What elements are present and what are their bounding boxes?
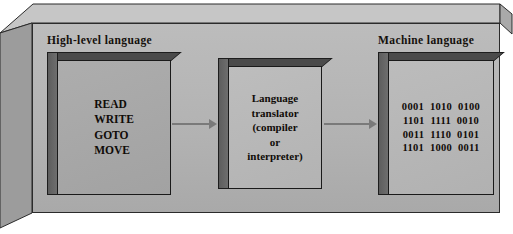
- box-language-translator: Language translator (compiler or interpr…: [218, 58, 322, 189]
- box-front-face: Language translator (compiler or interpr…: [228, 66, 322, 189]
- label-machine-language: Machine language: [378, 34, 474, 46]
- high-level-keywords: READ WRITE GOTO MOVE: [90, 97, 138, 158]
- arrow-translator-to-machine-icon: [324, 119, 377, 129]
- box-front-face: 0001 1010 0100 1101 1111 0010 0011 1110 …: [388, 60, 494, 195]
- machine-code-lines: 0001 1010 0100 1101 1111 0010 0011 1110 …: [398, 100, 484, 155]
- arrow-shaft: [172, 123, 210, 125]
- arrow-shaft: [324, 123, 370, 125]
- translator-text: Language translator (compiler or interpr…: [243, 91, 306, 164]
- arrow-high-to-translator-icon: [172, 119, 217, 129]
- label-high-level-language: High-level language: [47, 34, 152, 46]
- box-machine-language: 0001 1010 0100 1101 1111 0010 0011 1110 …: [378, 52, 494, 195]
- box-front-face: READ WRITE GOTO MOVE: [57, 60, 171, 195]
- arrow-head: [209, 119, 217, 129]
- arrow-head: [369, 119, 377, 129]
- diagram-canvas: High-level language Machine language REA…: [0, 0, 513, 234]
- box-high-level-language: READ WRITE GOTO MOVE: [47, 52, 171, 195]
